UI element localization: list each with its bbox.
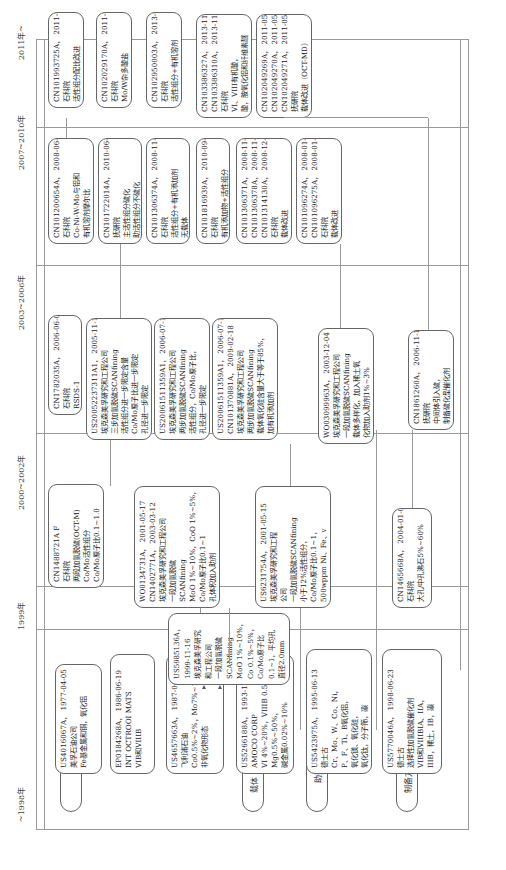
patent-box-cn101306374: CN101306374A， 2008-11-19石科院活性组分+有机添加剂无载体	[146, 138, 190, 244]
patent-box-cn1861260: CN1861260A， 2006-11-15抚研院中间体引入硫，制备硫化型催化剂	[408, 330, 454, 430]
patent-box-cn1465668: CN1465668A， 2004-01-07石科院大孔/中孔沸石5%~60%	[392, 508, 432, 608]
connector	[110, 440, 111, 486]
connector	[340, 244, 341, 328]
connector	[66, 118, 67, 138]
era-label-2007-2010: 2007~2010年	[15, 115, 26, 170]
patent-box-cn101306371: CN101306371A， 2008-11-19CN101306378A， 20…	[236, 138, 292, 244]
patent-box-us6231754: US6231754A， 2001-05-15埃克森美孚研究和工程公司一段加氢脱硫…	[255, 486, 331, 608]
connector	[120, 244, 121, 318]
patent-box-cn103386327: CN103386327A， 2013-11-13CN103386310A， 20…	[196, 14, 252, 118]
patent-box-cn101200654: CN101200654A， 2008-06-18石科院Co-Ni-W-Mo与铝和…	[48, 138, 94, 244]
connector	[284, 117, 428, 118]
patent-box-us5770046: US5770046A， 1998-06-23德士古选择性加氢脱硫催化剂VIB和V…	[382, 649, 442, 774]
connector	[200, 608, 201, 613]
frame-top-line-2	[44, 40, 45, 830]
patent-box-cn101993725: CN101993725A， 2011-03-30石科院活性组分配比改进	[48, 12, 84, 108]
diagram-canvas: ~1998年 1999年 2000~2002年 2003~2006年 2007~…	[0, 0, 506, 870]
era-label-2003-2006: 2003~2006年	[15, 275, 26, 330]
era-separator	[36, 127, 469, 128]
patent-box-us5423975: US5423975A， 1995-06-13德士古Cr、Mo、W、Co、Ni，P…	[306, 649, 372, 774]
patent-box-cn102029170: CN102029170A， 2011-04-27石科院Mo/W杂多酸盐	[96, 12, 132, 108]
connector	[460, 40, 461, 670]
connector	[376, 430, 377, 730]
patent-box-cn1782035: CN1782035A， 2006-06-07石科院RSDS-1	[48, 315, 82, 415]
arrow-icon	[202, 685, 206, 689]
connector	[300, 608, 301, 730]
patent-box-cn101722014: CN101722014A， 2010-06-09抚研院主活性组分硫化助活性组分不…	[98, 138, 142, 244]
era-label-2000-2002: 2000~2002年	[15, 455, 26, 510]
patent-box-us20061511359-a: US20061511359A1， 2006-07-13埃克森美孚研究和工程公司两…	[154, 318, 210, 440]
connector	[428, 118, 429, 330]
patent-box-ep0184268: EP0184268A， 1986-06-19INT OCTROOI MATSVI…	[110, 654, 155, 774]
patent-box-us20061511359-b: US20061511359A1， 2006-07-13CN101370881A，…	[212, 318, 278, 440]
patent-box-wo03099963: WO03099963A， 2003-12-04埃克森美孚研究和工程公司一段加氢脱…	[318, 328, 374, 444]
patent-box-cn101096274: CN101096274A， 2008-01-02CN101096275A， 20…	[296, 138, 342, 244]
patent-box-cn101816939: CN101816939A， 2010-09-01石科院有机添加物+活性组分	[196, 138, 230, 244]
connector	[412, 430, 413, 508]
patent-box-us20052237311: US20052237311A1， 2005-11-17埃克森美孚研究和工程公司三…	[86, 318, 152, 440]
frame-bottom-line	[468, 40, 469, 830]
frame-left-line	[36, 829, 469, 830]
frame-top-line	[36, 40, 37, 830]
era-label-pre1998: ~1998年	[15, 787, 26, 822]
patent-box-cn102049269: CN102049269A， 2011-05-11CN102049270A， 20…	[256, 14, 312, 118]
era-label-1999: 1999年	[15, 602, 26, 630]
era-separator	[36, 265, 469, 266]
patent-box-cn1488721: CN1488721A F石科院两段加氢脱硫(OCT-M)Co/Mo活性组分Co/…	[48, 484, 104, 588]
patent-box-cn102950003: CN102950003A， 2013-03-06石科院活性组分+有机溶剂	[146, 12, 182, 108]
arrow-icon	[218, 685, 222, 689]
connector	[229, 608, 230, 664]
era-label-2011: 2011年~	[15, 25, 26, 60]
connector	[290, 444, 291, 486]
patent-box-us4016067: US4016067A， 1977-04-05美孚石油公司Fe基金属和铜，氧化铝	[55, 664, 102, 774]
patent-box-wo0134731: WO0134731A， 2001-05-17CN1402771A， 2003-0…	[134, 486, 220, 608]
